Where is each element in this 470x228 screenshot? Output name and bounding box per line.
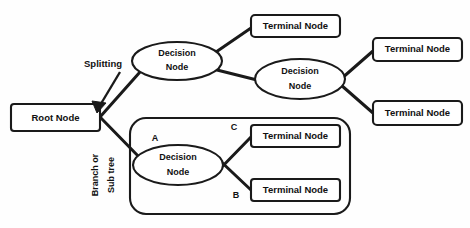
decision-node-1-label-line1: Decision (158, 48, 196, 58)
branch-label-line2: Sub tree (106, 157, 116, 193)
splitting-label: Splitting (84, 58, 122, 69)
decision-node-3-label-line2: Node (167, 167, 190, 177)
terminal-node-2-label: Terminal Node (385, 43, 450, 54)
decision-node-2-label-line1: Decision (281, 66, 319, 76)
decision-node-2-label-line2: Node (289, 81, 312, 91)
terminal-node-5-label: Terminal Node (263, 184, 328, 195)
splitting-pointer-line (99, 72, 120, 107)
edge-decision2-to-terminal2 (341, 51, 373, 79)
root-node-label: Root Node (31, 112, 79, 123)
decision-node-3-label-line1: Decision (159, 152, 197, 162)
node-terminal-3[interactable]: Terminal Node (373, 101, 462, 125)
node-terminal-4[interactable]: Terminal Node (251, 125, 340, 147)
node-decision-2[interactable]: Decision Node (255, 59, 345, 99)
branch-label-line1: Branch or (90, 153, 100, 196)
edge-decision1-to-decision2 (217, 70, 257, 80)
branch-label-c: C (231, 122, 238, 132)
node-decision-1[interactable]: Decision Node (132, 42, 222, 80)
node-decision-3[interactable]: Decision Node (133, 145, 223, 185)
terminal-node-3-label: Terminal Node (385, 107, 450, 118)
annotation-branch-subtree: Branch or Sub tree (90, 153, 116, 196)
decision-tree-diagram: Root Node Decision Node Terminal Node De… (0, 0, 470, 228)
node-terminal-5[interactable]: Terminal Node (251, 179, 340, 201)
diagram-canvas: Root Node Decision Node Terminal Node De… (0, 0, 470, 228)
edge-decision1-to-terminal1 (216, 28, 251, 52)
node-terminal-1[interactable]: Terminal Node (251, 15, 340, 37)
node-root[interactable]: Root Node (11, 104, 100, 131)
terminal-node-1-label: Terminal Node (263, 20, 328, 31)
edge-decision2-to-terminal3 (341, 85, 373, 113)
decision-node-1-label-line2: Node (166, 62, 189, 72)
branch-label-a: A (152, 133, 159, 143)
terminal-node-4-label: Terminal Node (263, 130, 328, 141)
decision-node-2-ellipse[interactable] (255, 59, 345, 99)
branch-label-b: B (233, 190, 240, 200)
node-terminal-2[interactable]: Terminal Node (373, 38, 462, 61)
decision-node-3-ellipse[interactable] (133, 145, 223, 185)
